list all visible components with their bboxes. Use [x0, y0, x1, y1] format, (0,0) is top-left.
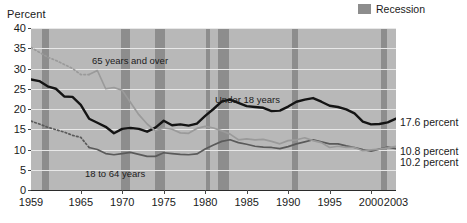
x-tick-label: 1975: [151, 196, 175, 208]
x-tick-mark: [122, 190, 123, 194]
line-65-years-and-over: [31, 47, 89, 74]
line-under-18-years: [31, 79, 396, 133]
legend: Recession: [358, 3, 425, 15]
plot-inner: [31, 28, 396, 190]
x-tick-label: 1970: [110, 196, 134, 208]
y-axis-title: Percent: [7, 8, 46, 20]
recession-swatch-icon: [358, 4, 371, 14]
series-label-18-to-64: 18 to 64 years: [85, 168, 145, 179]
y-tick-mark: [28, 129, 31, 130]
poverty-rate-chart: Percent Recession 0510152025303540 19591…: [0, 0, 467, 223]
x-tick-mark: [205, 190, 206, 194]
x-tick-label: 1959: [19, 196, 43, 208]
x-tick-mark: [164, 190, 165, 194]
x-tick-label: 1995: [317, 196, 341, 208]
x-axis-line: [31, 190, 396, 191]
y-tick-label: 0: [2, 184, 26, 196]
series-label-under-18: Under 18 years: [215, 94, 280, 105]
y-tick-label: 25: [2, 83, 26, 95]
y-tick-mark: [28, 48, 31, 49]
y-tick-label: 35: [2, 42, 26, 54]
x-tick-mark: [81, 190, 82, 194]
y-tick-label: 20: [2, 103, 26, 115]
x-tick-mark: [330, 190, 331, 194]
y-tick-label: 10: [2, 144, 26, 156]
y-tick-label: 15: [2, 123, 26, 135]
x-tick-mark: [371, 190, 372, 194]
x-tick-label: 1985: [234, 196, 258, 208]
series-label-65-and-over: 65 years and over: [92, 55, 168, 66]
x-tick-mark: [247, 190, 248, 194]
y-tick-mark: [28, 89, 31, 90]
y-tick-mark: [28, 69, 31, 70]
series-lines: [31, 28, 396, 190]
y-tick-label: 40: [2, 22, 26, 34]
x-tick-label: 1990: [276, 196, 300, 208]
plot-area: [31, 28, 396, 190]
y-tick-label: 5: [2, 164, 26, 176]
x-tick-label: 1980: [193, 196, 217, 208]
end-label-under-18: 17.6 percent: [400, 116, 458, 128]
y-tick-mark: [28, 28, 31, 29]
x-tick-mark: [288, 190, 289, 194]
y-tick-mark: [28, 150, 31, 151]
end-label-18-to-64: 10.2 percent: [400, 156, 458, 168]
line-18-to-64-years: [31, 121, 89, 147]
y-tick-label: 30: [2, 63, 26, 75]
x-tick-label: 1965: [69, 196, 93, 208]
x-tick-label: 2003: [384, 196, 408, 208]
x-tick-label: 2000: [359, 196, 383, 208]
y-tick-mark: [28, 109, 31, 110]
y-tick-mark: [28, 170, 31, 171]
legend-label-recession: Recession: [376, 3, 425, 15]
